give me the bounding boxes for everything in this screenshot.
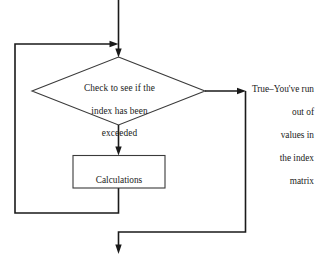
decision-label-line-3: exceeded xyxy=(62,128,177,139)
connector-entry-into-decision xyxy=(115,0,121,58)
true-branch-line-3: values in xyxy=(216,130,314,141)
process-label-line-1: Calculations xyxy=(73,175,165,186)
true-branch-line-1: True–You've run xyxy=(216,84,314,95)
decision-node-label: Check to see if the index has been excee… xyxy=(62,72,177,150)
decision-label-line-2: index has been xyxy=(62,106,177,117)
true-branch-line-5: matrix xyxy=(216,176,314,187)
flowchart-canvas: Check to see if the index has been excee… xyxy=(0,0,320,261)
process-node-label: Calculations xyxy=(73,164,165,198)
true-branch-line-4: the index xyxy=(216,153,314,164)
true-branch-label: True–You've run out of values in the ind… xyxy=(216,73,314,198)
decision-label-line-1: Check to see if the xyxy=(62,83,177,94)
true-branch-line-2: out of xyxy=(216,107,314,118)
